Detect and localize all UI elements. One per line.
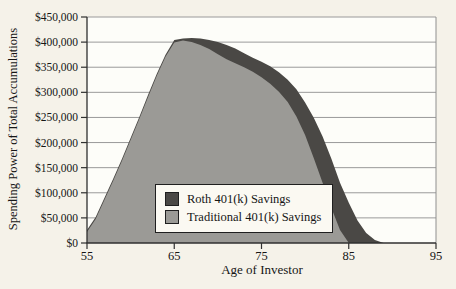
chart-plot-area: $0$50,000$100,000$150,000$200,000$250,00… xyxy=(0,0,456,289)
roth-series-swatch-icon xyxy=(165,192,179,206)
retirement-savings-area-chart: $0$50,000$100,000$150,000$200,000$250,00… xyxy=(0,0,456,289)
svg-text:$350,000: $350,000 xyxy=(35,61,78,74)
svg-text:$200,000: $200,000 xyxy=(35,137,78,150)
legend-label-roth: Roth 401(k) Savings xyxy=(187,193,290,206)
svg-text:65: 65 xyxy=(168,249,181,263)
svg-text:$450,000: $450,000 xyxy=(35,11,78,24)
svg-text:95: 95 xyxy=(430,249,443,263)
svg-text:$100,000: $100,000 xyxy=(35,187,78,200)
chart-legend: Roth 401(k) Savings Traditional 401(k) S… xyxy=(155,184,333,233)
svg-text:$150,000: $150,000 xyxy=(35,162,78,175)
traditional-series-swatch-icon xyxy=(165,210,179,224)
svg-text:$0: $0 xyxy=(67,237,79,249)
svg-text:85: 85 xyxy=(343,249,356,263)
svg-text:55: 55 xyxy=(81,249,94,263)
svg-text:$300,000: $300,000 xyxy=(35,86,78,99)
y-axis-title: Spending Power of Total Accumulations xyxy=(6,28,21,230)
svg-text:$400,000: $400,000 xyxy=(35,36,78,49)
legend-item-traditional: Traditional 401(k) Savings xyxy=(165,208,321,226)
svg-text:$50,000: $50,000 xyxy=(41,212,79,225)
svg-text:$250,000: $250,000 xyxy=(35,111,78,124)
svg-text:75: 75 xyxy=(255,249,268,263)
legend-item-roth: Roth 401(k) Savings xyxy=(165,190,321,208)
legend-label-traditional: Traditional 401(k) Savings xyxy=(187,211,321,224)
x-axis-title: Age of Investor xyxy=(221,262,303,278)
